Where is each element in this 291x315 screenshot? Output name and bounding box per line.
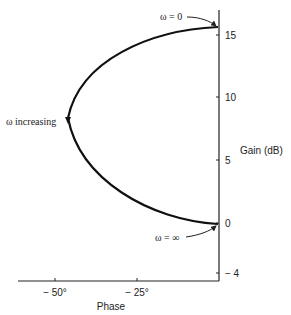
- omega-zero-label: ω = 0: [160, 11, 182, 22]
- omega-inf-label: ω = ∞: [155, 232, 179, 243]
- y-tick-5: 5: [225, 155, 231, 166]
- y-tick-0: 0: [225, 218, 231, 229]
- gain-phase-chart: 15 10 5 0 − 4 − 50° − 25° Phase Gain (dB…: [0, 0, 291, 315]
- omega-increasing-label: ω increasing: [6, 116, 56, 127]
- x-tick-m50: − 50°: [43, 287, 67, 298]
- y-tick-15: 15: [225, 30, 237, 41]
- gain-phase-curve: [68, 27, 218, 224]
- omega-inf-pointer: [186, 226, 216, 237]
- x-tick-m25: − 25°: [125, 287, 149, 298]
- y-axis-label: Gain (dB): [240, 145, 283, 156]
- y-tick-10: 10: [225, 92, 237, 103]
- x-axis-label: Phase: [97, 301, 126, 312]
- y-tick-m4: − 4: [225, 268, 240, 279]
- omega-zero-pointer: [187, 17, 216, 26]
